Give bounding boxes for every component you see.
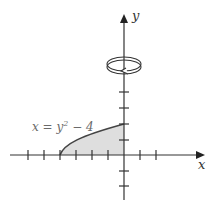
x-axis-label: x xyxy=(198,157,206,172)
diagram-canvas: y x x = y2 − 4 xyxy=(0,0,219,217)
y-axis-label: y xyxy=(131,8,140,23)
curve-equation-label: x = y2 − 4 xyxy=(32,119,94,134)
y-axis-arrow-icon xyxy=(120,14,128,23)
